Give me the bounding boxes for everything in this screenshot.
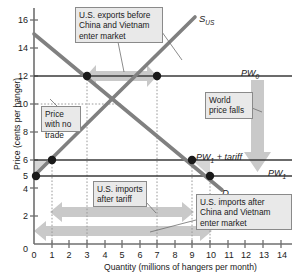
svg-text:9: 9 bbox=[189, 250, 194, 260]
x-axis-title: Quantity (millions of hangers per month) bbox=[104, 262, 257, 272]
dot-supply-pw0 bbox=[153, 72, 161, 80]
svg-text:4: 4 bbox=[102, 250, 107, 260]
svg-text:0: 0 bbox=[31, 250, 36, 260]
callout-exports-before: U.S. exports before China and Vietnam en… bbox=[75, 7, 163, 43]
svg-text:8: 8 bbox=[172, 250, 177, 260]
svg-text:6: 6 bbox=[23, 155, 28, 165]
y-axis-title: Price (cents per hanger) bbox=[12, 78, 22, 170]
pw0-label: PW0 bbox=[241, 68, 259, 80]
supply-curve-label: SUS bbox=[199, 13, 215, 26]
svg-text:2: 2 bbox=[66, 250, 71, 260]
svg-text:12: 12 bbox=[241, 250, 251, 260]
imports-after-entry-arrow bbox=[34, 221, 212, 241]
chart-figure: 16 14 12 10 8 6 5 4 2 0 0 1 2 3 4 5 6 7 … bbox=[0, 0, 300, 274]
svg-text:7: 7 bbox=[154, 250, 159, 260]
dot-demand-pw1-tariff bbox=[188, 156, 196, 164]
callout-imports-after-entry: U.S. imports after China and Vietnam ent… bbox=[196, 194, 292, 230]
svg-text:1: 1 bbox=[49, 250, 54, 260]
svg-text:8: 8 bbox=[23, 127, 28, 137]
svg-text:3: 3 bbox=[84, 250, 89, 260]
svg-text:6: 6 bbox=[137, 250, 142, 260]
svg-text:14: 14 bbox=[18, 43, 28, 53]
dot-demand-pw1 bbox=[206, 172, 214, 180]
svg-text:5: 5 bbox=[119, 250, 124, 260]
pw1-tariff-label: PW1 + tariff bbox=[196, 152, 242, 164]
callout-imports-after-tariff: U.S. imports after tariff bbox=[93, 181, 147, 207]
dot-demand-pw0 bbox=[83, 72, 91, 80]
dot-supply-pw1 bbox=[32, 172, 40, 180]
svg-text:0: 0 bbox=[23, 244, 28, 254]
svg-text:13: 13 bbox=[259, 250, 269, 260]
svg-text:11: 11 bbox=[224, 250, 233, 260]
x-tick-labels: 0 1 2 3 4 5 6 7 8 9 10 11 12 13 14 bbox=[31, 250, 287, 260]
svg-text:16: 16 bbox=[18, 15, 28, 25]
callout-world-price-falls: World price falls bbox=[205, 92, 253, 119]
pw1-label: PW1 bbox=[268, 168, 286, 180]
svg-text:5: 5 bbox=[23, 171, 28, 181]
svg-text:10: 10 bbox=[206, 250, 216, 260]
svg-text:14: 14 bbox=[277, 250, 287, 260]
svg-text:4: 4 bbox=[23, 184, 28, 194]
svg-text:2: 2 bbox=[23, 211, 28, 221]
dot-supply-pw1-tariff bbox=[48, 156, 56, 164]
callout-price-no-trade: Price with no trade bbox=[41, 106, 81, 132]
